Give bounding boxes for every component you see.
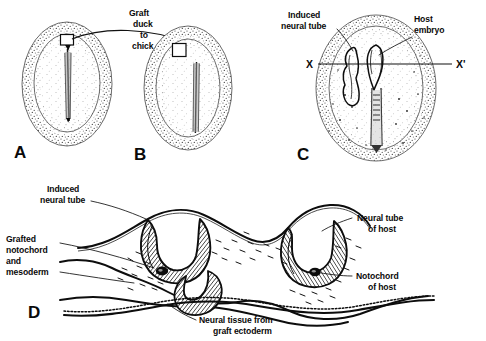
panel-d-grafted-label-line4: mesoderm [6,267,49,277]
panel-c-induced-label-line1: Induced [288,10,320,20]
panel-letter-a: A [14,143,26,162]
panel-c-host-label-line1: Host [414,14,433,24]
panel-d-induced-label-line1: Induced [47,184,79,194]
panel-d-grafted-label-line2: notochord [6,245,48,255]
panel-a-group: A [14,22,112,162]
panel-d-induced-neural-tube [141,219,210,283]
section-label-x-prime: X' [456,58,466,70]
graft-transfer-label-line3: to [140,30,148,40]
section-label-x: X [306,58,313,70]
panel-letter-b: B [134,145,146,164]
panel-d-graft-ectoderm-label-line2: graft ectoderm [213,326,272,336]
graft-transfer-label-line1: Graft [129,8,149,18]
panel-d-host-neural-tube [281,221,347,287]
panel-letter-c: C [297,145,309,164]
graft-transfer-label-line4: chick [132,41,154,51]
panel-d-induced-label: Induced neural tube [40,184,146,219]
panel-d-surface-ectoderm-inner [78,208,370,251]
panel-d-grafted-notochord-lumen [158,269,162,272]
panel-b-graft-square [173,44,187,57]
panel-d-host-notochord-lumen [312,270,316,273]
panel-a-graft-square [61,35,74,46]
panel-b-primitive-streak [193,62,200,133]
panel-d-host-notochord-label-line2: of host [368,282,396,292]
panel-d-grafted-label-line3: and [6,256,21,266]
panel-d-surface-ectoderm [78,205,370,248]
panel-c-host-label-line2: embryo [414,25,444,35]
panel-b-blastoderm-stipple [144,26,232,150]
panel-d-graft-ectoderm-label-line1: Neural tissue from [199,315,273,325]
panel-d-grafted-label-line1: Grafted [6,234,36,244]
panel-d-group: Induced neural tube Grafted notochord an… [6,184,434,336]
figure-root: A Graft duck to chick B [0,0,486,341]
panel-d-host-tube-label-line2: of host [368,224,396,234]
panel-d-host-notochord-label-line1: Notochord [356,271,399,281]
panel-d-host-tube-label-line1: Neural tube [357,213,403,223]
embryology-figure: A Graft duck to chick B [0,0,486,341]
panel-d-induced-label-line2: neural tube [40,195,86,205]
panel-c-group: X X' Induced neural tube Host embryo C [281,10,466,164]
graft-transfer-label-line2: duck [133,19,153,29]
panel-c-induced-label-line2: neural tube [281,21,327,31]
panel-letter-d: D [28,303,40,322]
panel-d-mesenchyme-center [212,232,269,264]
